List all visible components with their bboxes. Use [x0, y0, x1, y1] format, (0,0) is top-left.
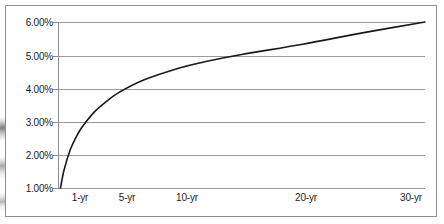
gridline-1pct: [58, 188, 425, 189]
gridline-6pct: [58, 22, 425, 23]
x-tick-label-10yr: 10-yr: [176, 192, 198, 203]
y-axis-line: [58, 22, 59, 189]
plot-area: [58, 22, 425, 188]
y-tick-label-5pct: 5.00%: [7, 51, 53, 62]
y-tick-label-2pct: 2.00%: [7, 150, 53, 161]
y-tick-6pct: [53, 22, 58, 23]
y-tick-label-1pct: 1.00%: [7, 183, 53, 194]
gridline-3pct: [58, 122, 425, 123]
gridline-4pct: [58, 89, 425, 90]
y-tick-2pct: [53, 155, 58, 156]
y-tick-label-6pct: 6.00%: [7, 17, 53, 28]
x-tick-label-5yr: 5-yr: [119, 192, 135, 203]
x-tick-label-1yr: 1-yr: [72, 192, 88, 203]
y-tick-5pct: [53, 56, 58, 57]
yield-curve-chart: 1.00% 2.00% 3.00% 4.00% 5.00% 6.00% 1-yr…: [0, 0, 444, 224]
x-tick-label-30yr: 30-yr: [400, 192, 422, 203]
gridline-5pct: [58, 56, 425, 57]
y-tick-3pct: [53, 122, 58, 123]
x-tick-label-20yr: 20-yr: [295, 192, 317, 203]
y-tick-label-3pct: 3.00%: [7, 117, 53, 128]
y-tick-label-4pct: 4.00%: [7, 84, 53, 95]
y-tick-1pct: [53, 188, 58, 189]
gridline-2pct: [58, 155, 425, 156]
y-axis-labels: 1.00% 2.00% 3.00% 4.00% 5.00% 6.00%: [0, 0, 53, 224]
y-tick-4pct: [53, 89, 58, 90]
